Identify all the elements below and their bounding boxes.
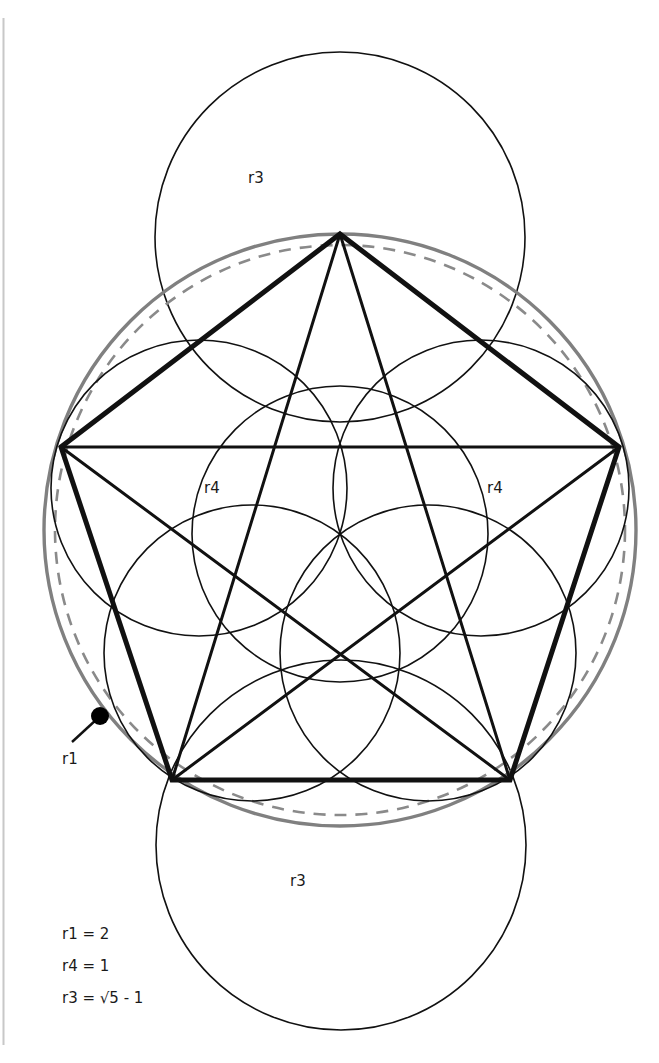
label-r3-bottom: r3 (290, 872, 306, 890)
label-r1-callout: r1 (62, 750, 78, 768)
geometry-figure: r3 r4 r4 r3 r1 r1 = 2 r4 = 1 r3 = √5 - 1 (0, 0, 659, 1063)
legend-line-r4: r4 = 1 (62, 957, 109, 975)
diagram-page: r3 r4 r4 r3 r1 r1 = 2 r4 = 1 r3 = √5 - 1 (0, 0, 659, 1063)
label-r4-left: r4 (204, 479, 220, 497)
legend-line-r3: r3 = √5 - 1 (62, 989, 143, 1007)
label-r3-top: r3 (248, 169, 264, 187)
legend-line-r1: r1 = 2 (62, 925, 109, 943)
r1-marker-dot (91, 707, 109, 725)
figure-background (0, 0, 659, 1063)
label-r4-right: r4 (487, 479, 503, 497)
